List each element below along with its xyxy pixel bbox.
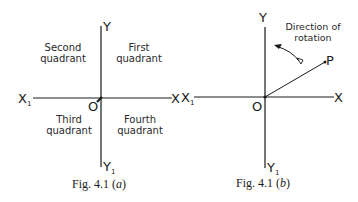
rotation-label-line2: rotation [276,32,350,43]
quadrant-third-line1: Third [44,114,94,125]
quadrant-second-line1: Second [38,42,88,53]
fig-b-x1-label: X1 [181,91,194,110]
fig-b-caption-letter: b [280,176,286,190]
quadrant-third-label: Third quadrant [44,114,94,136]
fig-b-caption-prefix: Fig. 4.1 [236,176,273,190]
quadrant-second-line2: quadrant [38,53,88,64]
fig-b-x1-main: X [181,90,190,105]
fig-a-x1-main: X [18,91,27,106]
fig-b-y-label: Y [259,11,267,24]
fig-a-caption: Fig. 4.1 (a) [72,177,126,192]
fig-b-x-label: X [334,91,343,104]
quadrant-fourth-line1: Fourth [114,114,166,125]
fig-a-y1-sub: 1 [111,168,115,176]
rotation-direction-label: Direction of rotation [276,21,350,43]
quadrant-second-label: Second quadrant [38,42,88,64]
fig-a-y1-main: Y [103,159,111,174]
fig-a-origin-label: O [88,100,98,113]
quadrant-first-line2: quadrant [114,53,164,64]
fig-b-y1-main: Y [267,160,275,175]
fig-a-x-label: X [171,92,180,105]
quadrant-first-line1: First [114,42,164,53]
fig-b-caption: Fig. 4.1 (b) [236,176,290,191]
fig-b-x1-sub: 1 [190,99,194,107]
fig-a-x1-sub: 1 [27,100,31,108]
fig-b-origin-label: O [252,100,262,113]
quadrant-fourth-line2: quadrant [114,125,166,136]
quadrant-first-label: First quadrant [114,42,164,64]
rotation-arrow-icon [276,46,299,61]
quadrant-third-line2: quadrant [44,125,94,136]
fig-a-caption-letter: a [116,177,122,191]
quadrant-fourth-label: Fourth quadrant [114,114,166,136]
fig-a-y-label: Y [103,20,111,33]
rotation-label-line1: Direction of [276,21,350,32]
fig-a-x1-label: X1 [18,92,31,111]
rotation-arrowhead-icon [274,44,282,49]
rotation-arrow-fletching-icon [297,58,303,64]
fig-a-caption-prefix: Fig. 4.1 [72,177,109,191]
fig-b-point-p-label: P [326,54,334,67]
fig-b-op-line [265,62,325,97]
